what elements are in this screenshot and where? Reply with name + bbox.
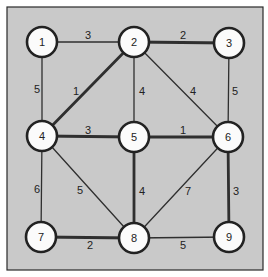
- edge-weight-6-8: 7: [185, 185, 191, 197]
- node-label: 9: [226, 231, 232, 243]
- node-9: 9: [214, 222, 244, 252]
- node-label: 3: [226, 37, 232, 49]
- node-4: 4: [27, 121, 57, 151]
- edge-weight-7-8: 2: [87, 239, 93, 251]
- edge-weight-4-7: 6: [34, 183, 40, 195]
- node-5: 5: [119, 122, 149, 152]
- node-1: 1: [27, 27, 57, 57]
- node-8: 8: [119, 223, 149, 253]
- edge-weight-4-5: 3: [85, 124, 91, 136]
- node-6: 6: [213, 122, 243, 152]
- node-2: 2: [119, 27, 149, 57]
- node-3: 3: [214, 28, 244, 58]
- node-label: 4: [39, 130, 45, 142]
- edge-weight-5-8: 4: [139, 185, 145, 197]
- node-label: 6: [225, 131, 231, 143]
- node-7: 7: [26, 222, 56, 252]
- node-label: 2: [131, 36, 137, 48]
- node-label: 1: [39, 36, 45, 48]
- edge-weight-3-6: 5: [232, 85, 238, 97]
- node-label: 7: [38, 231, 44, 243]
- graph-diagram: 3251445316547325 123456789: [0, 0, 268, 277]
- edge-weight-5-6: 1: [180, 124, 186, 136]
- node-label: 8: [131, 232, 137, 244]
- edge-weight-1-4: 5: [34, 83, 40, 95]
- edge-weight-2-6: 4: [190, 85, 196, 97]
- edge-weight-8-9: 5: [180, 239, 186, 251]
- edge-weight-2-4: 1: [73, 85, 79, 97]
- edge-weight-2-3: 2: [180, 29, 186, 41]
- edge-weight-6-9: 3: [233, 185, 239, 197]
- node-label: 5: [131, 131, 137, 143]
- edge-weight-2-5: 4: [139, 85, 145, 97]
- edge-weight-1-2: 3: [85, 29, 91, 41]
- edge-weight-4-8: 5: [77, 184, 83, 196]
